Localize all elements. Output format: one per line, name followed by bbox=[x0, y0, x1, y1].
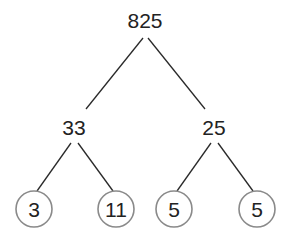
leaf-node-5b: 5 bbox=[239, 191, 275, 227]
edge-25-5b bbox=[218, 143, 253, 191]
leaf-label: 3 bbox=[28, 198, 40, 221]
edge-33-3 bbox=[37, 143, 71, 191]
edge-825-33 bbox=[86, 38, 143, 109]
leaf-label: 11 bbox=[105, 198, 127, 221]
edge-25-5a bbox=[177, 143, 211, 191]
edge-33-11 bbox=[78, 143, 113, 191]
root-node: 825 bbox=[127, 9, 162, 32]
leaf-node-3: 3 bbox=[16, 191, 52, 227]
leaf-node-5a: 5 bbox=[156, 191, 192, 227]
leaf-label: 5 bbox=[168, 198, 180, 221]
leaf-label: 5 bbox=[251, 198, 263, 221]
leaf-node-11: 11 bbox=[98, 191, 134, 227]
edge-825-25 bbox=[148, 38, 205, 109]
node-33: 33 bbox=[62, 116, 85, 139]
node-25: 25 bbox=[202, 116, 225, 139]
factor-tree-diagram: 825 33 25 3 11 5 5 bbox=[0, 0, 283, 241]
